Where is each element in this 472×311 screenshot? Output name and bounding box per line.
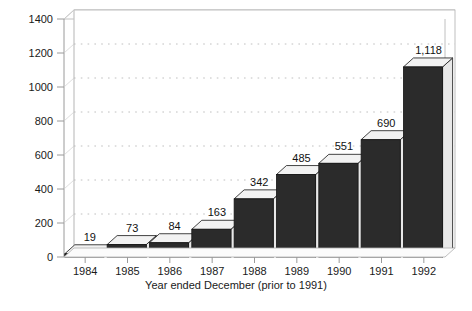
bar [234,190,283,257]
y-tick-label: 800 [35,115,53,127]
x-tick-label: 1986 [158,265,182,277]
bar-value-label: 485 [292,152,310,164]
bar-chart: 0200400600800100012001400 19738416334248… [0,0,472,311]
bar-value-label: 342 [250,176,268,188]
bar-value-label: 73 [126,222,138,234]
y-tick-label: 0 [47,251,53,263]
x-tick-label: 1989 [285,265,309,277]
x-tick-label: 1990 [327,265,351,277]
bar-value-label: 163 [208,206,226,218]
x-axis-ticks: 198419851986198719881989199019911992 [73,257,436,277]
bar-value-label: 84 [168,220,180,232]
y-tick-label: 600 [35,149,53,161]
y-tick-label: 400 [35,183,53,195]
y-tick-label: 1000 [29,81,53,93]
x-tick-label: 1987 [200,265,224,277]
chart-canvas: 0200400600800100012001400 19738416334248… [0,0,472,311]
bar [403,58,452,257]
bar [276,166,325,257]
x-tick-label: 1988 [242,265,266,277]
x-axis-title: Year ended December (prior to 1991) [145,279,327,291]
x-tick-label: 1985 [115,265,139,277]
bar-value-label: 551 [335,140,353,152]
x-tick-label: 1991 [369,265,393,277]
bar [319,154,368,257]
x-tick-label: 1992 [412,265,436,277]
y-tick-label: 1200 [29,47,53,59]
bar-value-label: 1,118 [415,44,442,56]
bar-value-label: 19 [84,231,96,243]
plot-floor [64,248,455,257]
bar-value-label: 690 [377,117,395,129]
y-tick-label: 200 [35,217,53,229]
y-tick-label: 1400 [29,13,53,25]
bar [361,131,410,257]
x-tick-label: 1984 [73,265,97,277]
